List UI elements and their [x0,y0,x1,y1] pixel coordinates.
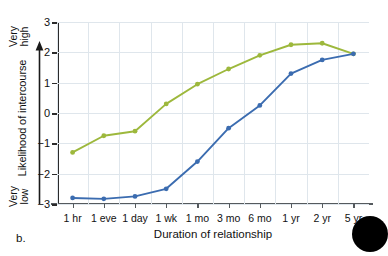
data-point-marker [226,67,231,72]
black-circle-marker [352,216,388,252]
x-tick-label: 1 mo [186,212,209,224]
x-tick-label: 6 mo [248,212,271,224]
y-axis-low-label-line1: Very [8,175,19,219]
y-tick-label: 0 [44,108,50,119]
y-axis-low-label: Very low [8,175,29,219]
x-tick-mark [260,204,261,208]
data-point-marker [289,42,294,47]
x-tick-mark [229,204,230,208]
y-axis-direction-arrow-icon [35,41,44,204]
x-tick-mark [73,204,74,208]
data-point-marker [226,126,231,131]
y-tick-label: 1 [44,77,50,88]
data-point-marker [195,82,200,87]
data-point-marker [133,194,138,199]
x-tick-mark [322,204,323,208]
data-point-marker [101,196,106,201]
x-axis-title: Duration of relationship [57,228,369,240]
panel-label: b. [16,232,26,244]
x-tick-mark [291,204,292,208]
series-line [73,43,354,152]
data-point-marker [257,103,262,108]
x-tick-label: 2 yr [313,212,331,224]
y-axis-high-label-line2: high [18,15,29,59]
y-axis-high-label: Very high [8,15,29,59]
x-tick-label: 1 yr [282,212,300,224]
x-tick-label: 3 mo [217,212,240,224]
x-tick-mark [104,204,105,208]
y-axis-high-label-line1: Very [8,15,19,59]
x-tick-mark [166,204,167,208]
data-point-marker [70,196,75,201]
data-point-marker [289,71,294,76]
y-tick-label: 2 [44,47,50,58]
series-plot [57,22,369,204]
data-point-marker [164,186,169,191]
x-tick-label: 1 day [122,212,148,224]
data-point-marker [320,41,325,46]
data-point-marker [164,102,169,107]
x-tick-label: 1 hr [64,212,82,224]
x-tick-mark [197,204,198,208]
series-women [70,51,356,201]
y-tick-label: −3 [37,199,50,210]
data-point-marker [70,150,75,155]
series-men [70,41,356,155]
data-point-marker [101,133,106,138]
x-tick-label: 1 wk [155,212,177,224]
plot-area: 3210−1−2−3 1 hr1 eve1 day1 wk1 mo3 mo6 m… [57,22,369,204]
y-axis-low-label-line2: low [18,175,29,219]
x-tick-mark [135,204,136,208]
y-tick-mark [52,204,57,206]
data-point-marker [351,51,356,56]
data-point-marker [257,53,262,58]
y-tick-label: −2 [37,168,50,179]
x-tick-mark [353,204,354,208]
data-point-marker [195,159,200,164]
data-point-marker [320,58,325,63]
y-tick-label: 3 [44,17,50,28]
data-point-marker [133,129,138,134]
x-tick-label: 1 eve [91,212,117,224]
y-tick-label: −1 [37,138,50,149]
